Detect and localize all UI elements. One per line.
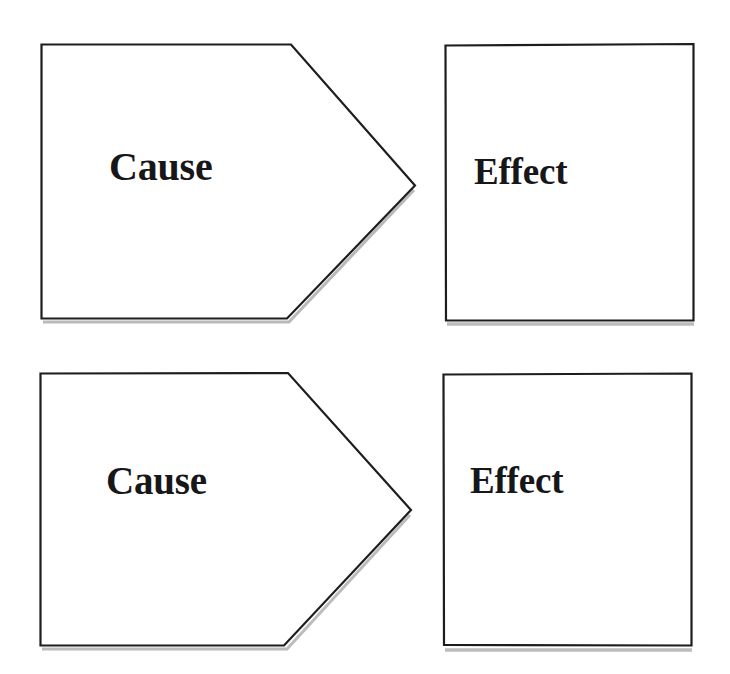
cause-shape-2-label: Cause [106,461,207,500]
cause-shape-2 [41,373,412,646]
effect-shape-2 [444,374,692,646]
cause-shape-1-label: Cause [109,147,212,187]
diagram-canvas: Cause Effect Cause Effect [0,0,730,674]
effect-shape-2-label: Effect [470,462,563,499]
diagram-shapes [0,0,730,674]
cause-shape-1 [42,45,416,319]
effect-shape-1-label: Effect [474,153,567,190]
